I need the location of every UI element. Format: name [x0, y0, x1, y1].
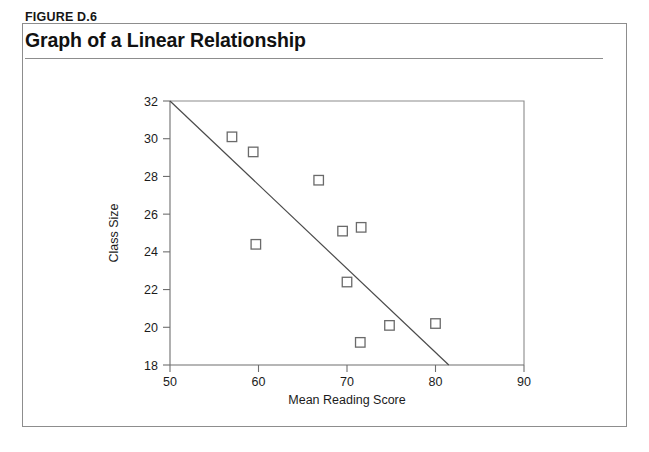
- figure-frame: [22, 23, 627, 427]
- figure-number: FIGURE D.6: [25, 9, 581, 25]
- figure-header: FIGURE D.6 Graph of a Linear Relationshi…: [25, 9, 581, 53]
- figure-title: Graph of a Linear Relationship: [25, 27, 581, 53]
- header-divider: [25, 58, 603, 59]
